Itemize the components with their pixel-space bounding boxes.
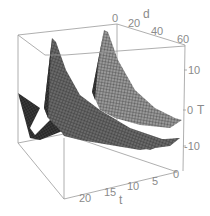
T-axis-label: T <box>197 103 205 117</box>
d-axis-label: d <box>143 7 150 21</box>
t-tick-15: 15 <box>104 186 116 198</box>
t-tick-20: 20 <box>79 192 91 204</box>
t-axis: 20 15 10 5 0 t <box>79 168 179 207</box>
d-tick-60: 60 <box>177 33 189 45</box>
t-tick-5: 5 <box>152 175 158 187</box>
d-tick-20: 20 <box>128 17 140 29</box>
surface-plot: 0 20 40 60 d 10 0 T -10 20 15 10 5 0 t <box>0 0 210 216</box>
t-axis-label: t <box>119 193 123 207</box>
d-tick-40: 40 <box>151 25 163 37</box>
T-tick-10: 10 <box>188 64 200 76</box>
T-tick-0: 0 <box>187 104 193 116</box>
T-tick-minus10: -10 <box>184 140 200 152</box>
t-tick-10: 10 <box>127 180 139 192</box>
d-tick-0: 0 <box>112 12 118 24</box>
T-axis: 10 0 T -10 <box>183 64 205 152</box>
t-tick-0: 0 <box>173 168 179 180</box>
